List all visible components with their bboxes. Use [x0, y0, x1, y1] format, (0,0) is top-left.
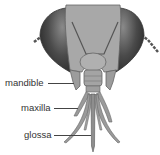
leader-line-glossa: [54, 135, 91, 136]
leader-line-mandible: [48, 83, 74, 84]
label-glossa: glossa: [24, 130, 51, 140]
mandible-left: [70, 70, 80, 90]
label-maxilla: maxilla: [21, 103, 51, 113]
glossa: [91, 94, 95, 152]
label-mandible: mandible: [5, 78, 44, 88]
clypeus: [80, 53, 106, 71]
labrum: [84, 70, 102, 86]
mandible-right: [106, 70, 116, 90]
insect-head-diagram: mandible maxilla glossa: [0, 0, 160, 155]
leader-line-maxilla: [54, 108, 78, 109]
